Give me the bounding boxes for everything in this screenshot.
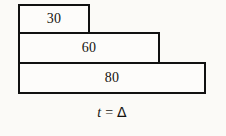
caption-variable: t bbox=[97, 105, 101, 120]
bar-value-label: 30 bbox=[47, 12, 61, 26]
bar-value-label: 80 bbox=[105, 71, 119, 85]
bar-row: 30 bbox=[18, 4, 90, 34]
bar-stack: 30 60 80 bbox=[18, 4, 206, 94]
bar-row: 80 bbox=[18, 62, 206, 94]
caption-operator: = bbox=[105, 105, 113, 120]
stepped-bar-figure: 30 60 80 t=Δ bbox=[0, 0, 226, 136]
bar-value-label: 60 bbox=[82, 41, 96, 55]
caption-value-delta: Δ bbox=[117, 104, 127, 120]
figure-caption: t=Δ bbox=[18, 104, 206, 121]
bar-row: 60 bbox=[18, 32, 160, 64]
